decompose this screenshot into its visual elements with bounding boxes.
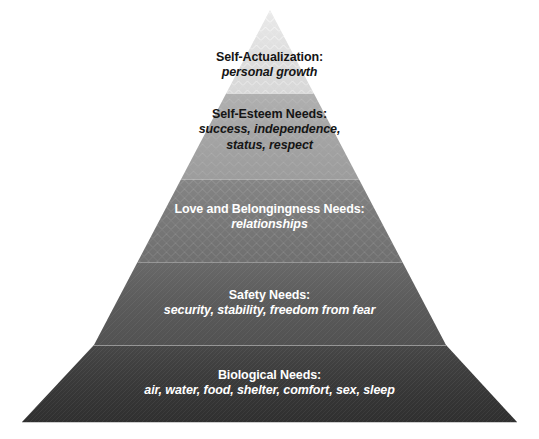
pyramid-graphic: [0, 0, 539, 439]
pyramid-tier-3-shape: [138, 179, 403, 262]
pyramid-tier-4-shape: [94, 262, 446, 345]
pyramid-tier-5-shape: [22, 345, 517, 423]
pyramid-tier-1-shape: [226, 10, 313, 93]
pyramid-tier-2-shape: [181, 93, 359, 179]
hierarchy-of-needs-pyramid: Self-Actualization: personal growth Self…: [0, 0, 539, 439]
